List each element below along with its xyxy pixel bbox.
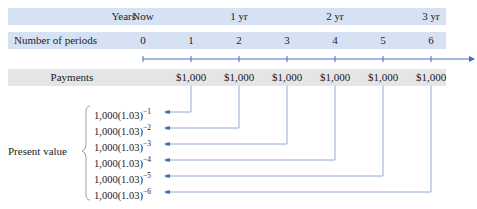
brace xyxy=(82,106,90,200)
present-value-label: Present value xyxy=(8,144,67,158)
discount-connectors xyxy=(170,86,431,192)
pv-term-6: 1,000(1.03)−6 xyxy=(94,185,151,203)
timeline-diagram xyxy=(0,0,477,209)
timeline-axis xyxy=(143,56,474,62)
